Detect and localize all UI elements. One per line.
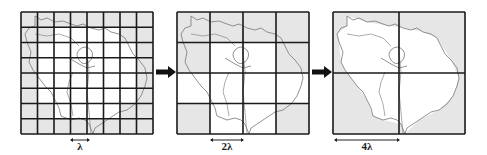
grid-cell bbox=[177, 104, 210, 135]
grid-cell bbox=[137, 27, 154, 42]
grid-cell bbox=[120, 27, 137, 42]
grid-cell bbox=[87, 88, 104, 103]
grid-cell bbox=[54, 58, 71, 73]
grid-cell bbox=[87, 58, 104, 73]
grid-cell bbox=[38, 43, 55, 58]
grid-cell bbox=[21, 27, 38, 42]
grid-cell bbox=[71, 88, 88, 103]
grid-cell bbox=[104, 88, 121, 103]
grid-cell bbox=[104, 27, 121, 42]
grid-cell bbox=[87, 43, 104, 58]
grid-cell bbox=[177, 43, 210, 74]
grid-cell bbox=[120, 58, 137, 73]
fine-grid-map bbox=[21, 12, 154, 135]
grid-cell bbox=[38, 73, 55, 88]
grid-cell bbox=[137, 43, 154, 58]
grid-cell bbox=[276, 73, 309, 104]
grid-cell bbox=[21, 43, 38, 58]
grid-cell bbox=[137, 12, 154, 27]
grid-cell bbox=[104, 43, 121, 58]
grid-cell bbox=[54, 119, 71, 134]
grid-cell bbox=[276, 104, 309, 135]
grid-cell bbox=[243, 104, 276, 135]
grid-cell bbox=[71, 104, 88, 119]
grid-cell bbox=[120, 73, 137, 88]
grid-cell bbox=[177, 73, 210, 104]
grid-cell bbox=[210, 43, 243, 74]
grid-cell bbox=[243, 73, 276, 104]
grid-cell bbox=[243, 12, 276, 43]
scale-label-lambda: λ bbox=[70, 140, 90, 152]
grid-cell bbox=[137, 104, 154, 119]
grid-cell bbox=[21, 88, 38, 103]
grid-cell bbox=[38, 58, 55, 73]
grid-cell bbox=[87, 73, 104, 88]
grid-panel-fine bbox=[21, 12, 153, 134]
grid-cell bbox=[21, 73, 38, 88]
grid-cell bbox=[104, 73, 121, 88]
medium-grid-map bbox=[177, 12, 310, 135]
grid-cell bbox=[38, 104, 55, 119]
scale-label-2lambda: 2λ bbox=[212, 140, 242, 152]
scale-label-4lambda: 4λ bbox=[352, 140, 382, 152]
grid-cell bbox=[21, 104, 38, 119]
grid-cell bbox=[120, 88, 137, 103]
grid-cell bbox=[54, 43, 71, 58]
grid-panel-coarse bbox=[333, 12, 465, 134]
grid-cell bbox=[54, 12, 71, 27]
arrow-right-icon bbox=[312, 66, 332, 78]
grid-cell bbox=[120, 119, 137, 134]
coarse-grid-map bbox=[333, 12, 466, 135]
grid-cell bbox=[38, 119, 55, 134]
grid-cell bbox=[38, 88, 55, 103]
grid-cell bbox=[71, 119, 88, 134]
grid-cell bbox=[120, 12, 137, 27]
grid-cell bbox=[21, 119, 38, 134]
grid-cell bbox=[137, 119, 154, 134]
grid-cell bbox=[104, 12, 121, 27]
grid-cell bbox=[71, 73, 88, 88]
arrow-right-icon bbox=[156, 66, 176, 78]
grid-panel-medium bbox=[177, 12, 309, 134]
grid-cell bbox=[87, 12, 104, 27]
grid-cell bbox=[104, 58, 121, 73]
grid-cell bbox=[137, 88, 154, 103]
